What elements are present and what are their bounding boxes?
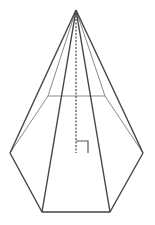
hexagonal-pyramid-diagram [0,0,155,225]
back-right-base-edge [105,96,143,153]
back-left-base-edge [10,96,48,153]
lateral-edge-back-right [76,10,105,96]
front-base-edges [10,153,143,212]
lateral-edge-front-left [42,10,76,212]
right-angle-marker [76,141,88,153]
lateral-edge-front-right [76,10,110,212]
lateral-edge-right [76,10,143,153]
lateral-edge-left [10,10,76,153]
lateral-edge-back-left [48,10,76,96]
